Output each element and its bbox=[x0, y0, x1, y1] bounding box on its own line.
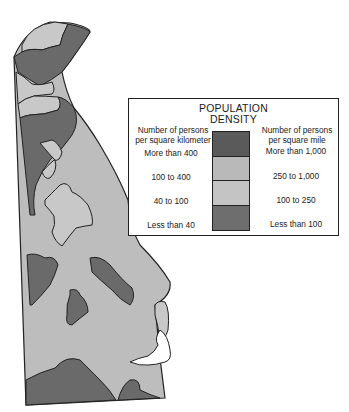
legend-swatch-0 bbox=[213, 132, 249, 157]
legend-km-0: More than 400 bbox=[129, 148, 213, 158]
legend-km-1: 100 to 400 bbox=[129, 172, 213, 182]
legend-header-mile-line2: per square mile bbox=[257, 136, 337, 146]
legend-mile-0: More than 1,000 bbox=[253, 146, 339, 156]
legend-title-line2: DENSITY bbox=[129, 114, 338, 125]
legend-header-mile: Number of persons per square mile bbox=[257, 126, 337, 145]
legend-mile-1: 250 to 1,000 bbox=[253, 171, 339, 181]
legend-km-2: 40 to 100 bbox=[129, 196, 213, 206]
legend-header-km: Number of persons per square kilometer bbox=[131, 126, 215, 145]
legend-swatch-3 bbox=[213, 206, 249, 231]
legend-swatches bbox=[212, 131, 250, 231]
legend-km-3: Less than 40 bbox=[129, 220, 213, 230]
legend-title: POPULATION DENSITY bbox=[129, 103, 338, 125]
legend-swatch-1 bbox=[213, 157, 249, 182]
legend-swatch-2 bbox=[213, 181, 249, 206]
legend-header-km-line2: per square kilometer bbox=[131, 136, 215, 146]
legend-mile-2: 100 to 250 bbox=[253, 195, 339, 205]
legend-mile-3: Less than 100 bbox=[253, 219, 339, 229]
legend: POPULATION DENSITY Number of persons per… bbox=[128, 98, 339, 236]
